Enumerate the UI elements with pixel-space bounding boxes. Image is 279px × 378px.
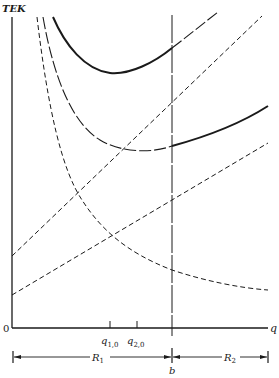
boundary-label-b: b bbox=[169, 365, 175, 376]
u-curve-upper-dashed bbox=[172, 12, 218, 48]
arrowhead-r2-right bbox=[260, 355, 267, 359]
tick-label-q20: q2,0 bbox=[127, 335, 145, 349]
arrowhead-r1-right bbox=[164, 355, 171, 359]
region-label-r2: R2 bbox=[223, 352, 236, 365]
arrowhead-r1-left bbox=[14, 355, 21, 359]
x-axis-label: q bbox=[270, 322, 277, 335]
y-axis-label: TEK bbox=[2, 3, 27, 14]
origin-label: 0 bbox=[3, 323, 9, 334]
tick-label-q10: q1,0 bbox=[101, 335, 119, 349]
region-label-r1: R1 bbox=[91, 352, 104, 365]
cost-curves-diagram: TEK 0 q q1,0 q2,0 R1 R2 b bbox=[0, 0, 279, 378]
hyperbola-curve bbox=[37, 17, 268, 290]
u-curve-upper-solid bbox=[53, 17, 172, 73]
u-curve-lower-solid bbox=[172, 106, 268, 146]
arrowhead-r2-left bbox=[173, 355, 180, 359]
linear-cost-line-shallow bbox=[12, 143, 268, 295]
linear-cost-line-steep bbox=[12, 16, 262, 256]
